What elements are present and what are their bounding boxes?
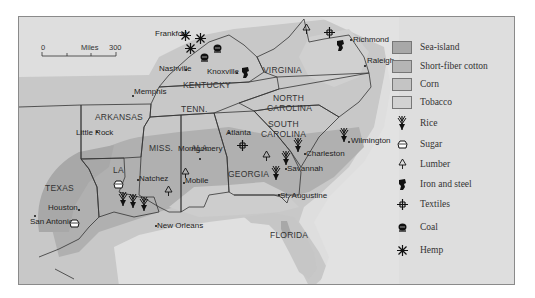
- state-label: TEXAS: [45, 184, 74, 193]
- scale-end-label: 300: [109, 43, 122, 52]
- legend-symbol-item: Rice: [392, 116, 437, 130]
- scale-bar: [41, 52, 121, 58]
- legend-label: Sugar: [420, 139, 442, 149]
- coal-icon: [392, 220, 412, 234]
- scale-unit-label: Miles: [81, 43, 99, 52]
- state-label: LA: [113, 166, 124, 175]
- city-label: Savannah: [287, 165, 323, 173]
- legend-symbol-item: Textiles: [392, 197, 450, 211]
- legend-swatch: [392, 96, 412, 109]
- legend-label: Textiles: [420, 199, 450, 209]
- city-label: New Orleans: [157, 222, 203, 230]
- city-label: Little Rock: [76, 129, 113, 137]
- legend-swatch: [392, 60, 412, 73]
- iron-icon: [392, 177, 412, 191]
- lumber-icon: [392, 157, 412, 171]
- legend-label: Hemp: [420, 245, 443, 255]
- legend-label: Tobacco: [420, 97, 452, 107]
- legend-swatch: [392, 78, 412, 91]
- legend-symbol-item: Coal: [392, 220, 438, 234]
- sugar-icon: [392, 137, 412, 151]
- lumber-icon: [181, 165, 190, 183]
- legend-label: Lumber: [420, 159, 450, 169]
- legend-area-item: Short-fiber cotton: [392, 59, 488, 73]
- hemp-icon: [185, 40, 196, 58]
- city-dot: [364, 65, 366, 67]
- legend-label: Corn: [420, 79, 439, 89]
- state-label: TENN.: [181, 105, 208, 114]
- rice-icon: [118, 191, 128, 211]
- lumber-icon: [164, 183, 173, 201]
- rice-icon: [339, 127, 349, 147]
- city-label: Raleigh: [367, 57, 394, 65]
- state-label: SOUTH: [268, 120, 299, 129]
- rice-icon: [293, 137, 303, 157]
- legend-label: Iron and steel: [420, 179, 472, 189]
- state-label: NORTH: [273, 94, 304, 103]
- city-label: Montgomery: [178, 145, 222, 153]
- city-label: Houston: [48, 204, 78, 212]
- state-label: CAROLINA: [267, 104, 312, 113]
- textiles-icon: [237, 137, 248, 155]
- city-label: Richmond: [353, 36, 389, 44]
- hemp-icon: [195, 30, 206, 48]
- legend-symbol-item: Sugar: [392, 137, 442, 151]
- city-label: Memphis: [134, 88, 166, 96]
- city-label: San Antonio: [30, 218, 73, 226]
- legend-label: Short-fiber cotton: [420, 61, 488, 71]
- state-label: FLORIDA: [270, 231, 308, 240]
- city-label: Atlanta: [226, 129, 251, 137]
- legend-swatch: [392, 41, 412, 54]
- sugar-icon: [69, 214, 80, 232]
- coal-icon: [213, 39, 222, 57]
- city-label: Charleston: [306, 150, 345, 158]
- rice-icon: [139, 196, 149, 216]
- textiles-icon: [324, 24, 335, 42]
- lumber-icon: [262, 148, 271, 166]
- state-label: GEORGIA: [228, 170, 269, 179]
- legend-symbol-item: Iron and steel: [392, 177, 472, 191]
- legend-area-item: Sea-island: [392, 40, 460, 54]
- iron-icon: [336, 38, 345, 56]
- lumber-icon: [302, 21, 311, 39]
- rice-icon: [271, 165, 281, 185]
- rice-icon: [281, 150, 291, 170]
- state-label: ARKANSAS: [95, 113, 143, 122]
- hemp-icon: [392, 243, 412, 257]
- iron-icon: [241, 65, 250, 83]
- textiles-icon: [392, 197, 412, 211]
- city-label: Nashville: [159, 65, 191, 73]
- city-dot: [350, 39, 352, 41]
- coal-icon: [200, 48, 209, 66]
- rice-icon: [392, 116, 412, 130]
- legend-area-item: Tobacco: [392, 95, 452, 109]
- rice-icon: [128, 193, 138, 213]
- state-label: VIRGINIA: [263, 66, 302, 75]
- state-label: MISS.: [149, 144, 173, 153]
- city-label: Knoxville: [207, 68, 239, 76]
- scale-start-label: 0: [41, 43, 45, 52]
- legend-symbol-item: Lumber: [392, 157, 450, 171]
- city-dot: [78, 209, 80, 211]
- legend-label: Rice: [420, 118, 437, 128]
- legend-area-item: Corn: [392, 77, 439, 91]
- city-label: Natchez: [139, 175, 168, 183]
- legend-label: Sea-island: [420, 42, 460, 52]
- city-label: St. Augustine: [280, 192, 327, 200]
- legend-label: Coal: [420, 222, 438, 232]
- city-dot: [199, 158, 201, 160]
- state-label: KENTUCKY: [183, 81, 231, 90]
- legend-symbol-item: Hemp: [392, 243, 443, 257]
- city-label: Wilmington: [351, 137, 391, 145]
